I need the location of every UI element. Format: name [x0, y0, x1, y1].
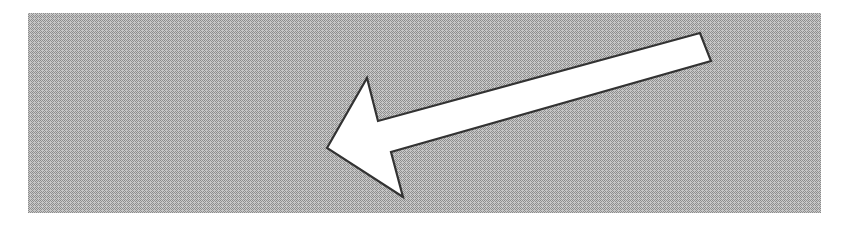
figure-canvas: Large white block arrow pointing left ov… — [0, 0, 850, 226]
arrow-figure-svg — [0, 0, 850, 226]
